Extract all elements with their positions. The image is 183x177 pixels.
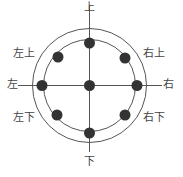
dot-upper-right (120, 53, 131, 64)
label-upper-right: 右上 (143, 48, 165, 60)
dot-center (84, 80, 95, 91)
label-lower-left: 左下 (13, 112, 35, 124)
dot-left (37, 80, 48, 91)
dot-lower-left (52, 110, 63, 121)
label-bottom: 下 (84, 156, 95, 168)
direction-circle-graphic (0, 0, 183, 177)
dot-lower-right (120, 110, 131, 121)
label-right: 右 (163, 79, 174, 91)
dot-upper-left (53, 52, 64, 63)
direction-diagram: 上 下 左 右 左上 右上 左下 右下 (0, 0, 183, 177)
label-lower-right: 右下 (143, 112, 165, 124)
dot-bottom (84, 128, 95, 139)
label-top: 上 (84, 2, 95, 14)
label-upper-left: 左上 (13, 48, 35, 60)
dot-right (132, 80, 143, 91)
dot-top (84, 38, 95, 49)
label-left: 左 (7, 79, 18, 91)
